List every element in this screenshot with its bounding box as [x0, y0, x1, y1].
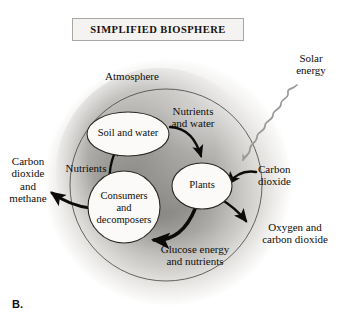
- label-nutrients-and-water: Nutrients and water: [158, 105, 228, 130]
- label-nutrients: Nutrients: [57, 162, 115, 174]
- figure-title-plate: SIMPLIFIED BIOSPHERE: [72, 18, 244, 41]
- label-atmosphere: Atmosphere: [92, 70, 172, 82]
- panel-label: B.: [12, 298, 36, 310]
- label-carbon-dioxide-and-methane: Carbon dioxide and methane: [2, 155, 54, 204]
- label-soil-and-water: Soil and water: [88, 127, 168, 139]
- label-glucose-energy-and-nutrients: Glucose energy and nutrients: [140, 243, 250, 268]
- biosphere-figure: SIMPLIFIED BIOSPHERE Atmosphere Solar en…: [0, 0, 345, 328]
- label-carbon-dioxide: Carbon dioxide: [258, 163, 314, 188]
- biosphere-sphere: [44, 58, 292, 306]
- label-oxygen-and-carbon-dioxide: Oxygen and carbon dioxide: [246, 221, 344, 246]
- label-solar-energy: Solar energy: [282, 52, 340, 77]
- label-plants: Plants: [178, 179, 226, 191]
- label-consumers-and-decomposers: Consumers and decomposers: [89, 190, 159, 225]
- figure-title: SIMPLIFIED BIOSPHERE: [90, 24, 225, 35]
